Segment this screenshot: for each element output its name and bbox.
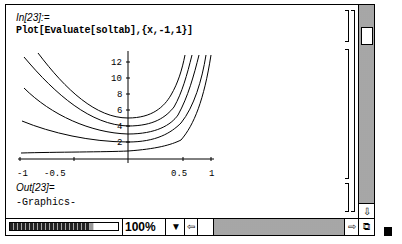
cell-group-bracket[interactable]: [351, 10, 355, 212]
notebook-window: In[23]:= Plot[Evaluate[soltab],{x,-1,1}]: [5, 4, 375, 236]
vertical-scroll-thumb[interactable]: [361, 27, 373, 45]
input-label: In[23]:=: [16, 12, 50, 23]
svg-text:2: 2: [117, 138, 122, 148]
svg-text:-0.5: -0.5: [44, 169, 66, 179]
svg-text:0.5: 0.5: [171, 169, 187, 179]
svg-text:8: 8: [117, 90, 122, 100]
cursor-block: [384, 227, 392, 236]
notebook-content: In[23]:= Plot[Evaluate[soltab],{x,-1,1}]: [6, 5, 358, 219]
cell-bracket-graphics[interactable]: [345, 49, 349, 179]
svg-text:-1: -1: [17, 169, 28, 179]
output-label: Out[23]=: [16, 182, 55, 193]
input-cell-code[interactable]: Plot[Evaluate[soltab],{x,-1,1}]: [16, 25, 193, 36]
cell-bracket-output[interactable]: [345, 183, 349, 212]
plot-graphic[interactable]: 12 10 8 6 4 2 -1 -0.5 0.5 1: [16, 45, 216, 180]
horizontal-scroll-thumb[interactable]: [198, 219, 214, 235]
svg-text:12: 12: [111, 58, 122, 68]
zoom-dropdown-caret-icon[interactable]: ▼: [168, 219, 184, 235]
scroll-down-arrow-icon[interactable]: ⇩: [358, 203, 374, 218]
cell-bracket-input[interactable]: [345, 10, 349, 42]
window-grow-icon[interactable]: ⧉: [358, 219, 374, 235]
svg-text:1: 1: [209, 169, 214, 179]
svg-text:4: 4: [117, 122, 122, 132]
scroll-right-arrow-icon[interactable]: ⇨: [344, 219, 358, 235]
magnification-slider[interactable]: [9, 222, 119, 231]
bottom-bar: 100% ▼ ⇦ ⇨ ⧉: [6, 218, 374, 235]
plot-curves: [21, 53, 211, 153]
zoom-level[interactable]: 100%: [122, 219, 166, 235]
output-value: -Graphics-: [16, 197, 76, 208]
svg-text:10: 10: [111, 74, 122, 84]
svg-text:6: 6: [117, 106, 122, 116]
scroll-left-arrow-icon[interactable]: ⇦: [184, 219, 198, 235]
horizontal-scrollbar[interactable]: [214, 219, 344, 235]
